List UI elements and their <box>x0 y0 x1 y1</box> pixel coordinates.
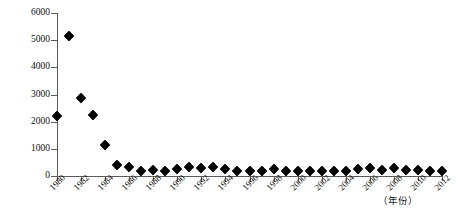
data-point <box>76 93 86 103</box>
plot-area <box>57 13 442 176</box>
data-point <box>172 164 182 174</box>
y-axis-tick-label-text: 5000 <box>16 35 50 45</box>
data-point <box>377 165 387 175</box>
y-axis-tick-label: 6000 <box>0 8 50 18</box>
y-axis-tick-label: 0 <box>0 171 50 181</box>
y-axis-tick-label-text: 0 <box>16 171 50 181</box>
data-point <box>293 166 303 176</box>
data-point <box>245 166 255 176</box>
data-point <box>196 163 206 173</box>
y-axis-tick-label-text: 2000 <box>16 117 50 127</box>
y-axis-tick-label-text: 3000 <box>16 90 50 100</box>
data-point <box>64 31 74 41</box>
data-point <box>88 110 98 120</box>
data-point <box>317 166 327 176</box>
y-axis-title: （万t/日） <box>0 0 1 5</box>
data-point <box>425 166 435 176</box>
data-point <box>401 165 411 175</box>
data-point <box>112 160 122 170</box>
data-point <box>52 111 62 121</box>
y-axis-tick-label: 5000 <box>0 35 50 45</box>
y-axis-tick-label: 2000 <box>0 117 50 127</box>
data-point <box>220 165 230 175</box>
y-axis-tick-label-text: 4000 <box>16 62 50 72</box>
data-point <box>100 140 110 150</box>
data-point <box>257 166 267 176</box>
data-point <box>389 163 399 173</box>
data-point <box>365 163 375 173</box>
y-axis-tick-label: 1000 <box>0 144 50 154</box>
data-point <box>413 165 423 175</box>
data-point <box>148 165 158 175</box>
data-point <box>329 166 339 176</box>
data-point <box>305 166 315 176</box>
y-axis-tick-label: 4000 <box>0 62 50 72</box>
data-point <box>160 166 170 176</box>
data-point <box>341 166 351 176</box>
y-axis-tick-label: 3000 <box>0 90 50 100</box>
x-axis-title: （年份） <box>378 193 418 207</box>
data-point <box>136 166 146 176</box>
data-point <box>208 162 218 172</box>
data-point <box>184 162 194 172</box>
y-axis-tick-label-text: 6000 <box>16 8 50 18</box>
data-point <box>269 165 279 175</box>
chart-container: （万t/日） 0100020003000400050006000 1980198… <box>0 0 466 223</box>
y-axis-tick-label-text: 1000 <box>16 144 50 154</box>
data-point <box>281 166 291 176</box>
data-point <box>124 162 134 172</box>
data-point <box>353 164 363 174</box>
data-point <box>233 166 243 176</box>
